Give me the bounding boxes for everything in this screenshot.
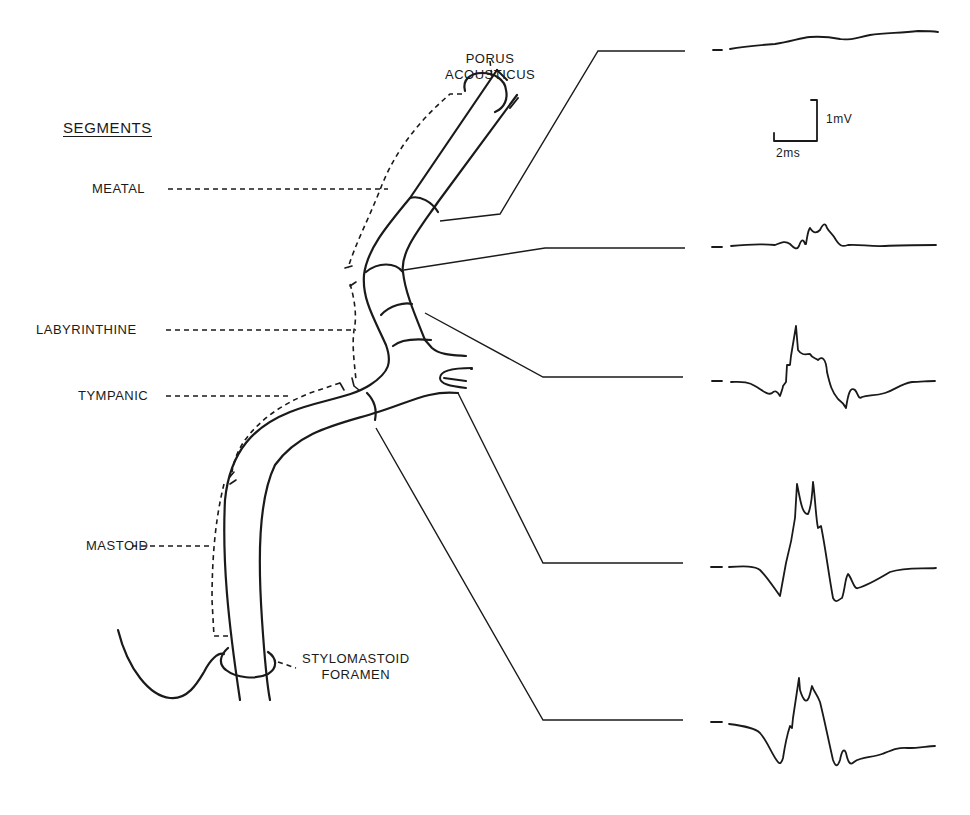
traces (711, 31, 938, 765)
divider-4 (393, 339, 431, 346)
nerve-edge-inner (403, 95, 517, 356)
porus-acousticus-label: PORUS ACOUSTICUS (445, 51, 535, 84)
stylomastoid-label-line2: FORAMEN (302, 667, 410, 683)
posterior-auricular-loop (118, 630, 224, 698)
nerve-branch (440, 368, 472, 388)
mastoid-label: MASTOID (86, 538, 149, 554)
trace-1 (713, 31, 938, 50)
tympanic-label: TYMPANIC (78, 388, 148, 404)
trace-3 (712, 326, 935, 408)
stylomastoid-label-line1: STYLOMASTOID (302, 651, 410, 667)
bracket-ticks (229, 266, 359, 484)
divider-2 (366, 265, 403, 273)
porus-label-line1: PORUS (445, 51, 535, 67)
scale-time-label: 2ms (776, 146, 800, 161)
segments-header: SEGMENTS (63, 119, 152, 138)
facial-nerve (118, 70, 518, 700)
stylomastoid-foramen-label: STYLOMASTOID FORAMEN (302, 651, 410, 684)
trace-5 (711, 678, 935, 765)
segment-brackets (132, 61, 492, 668)
scale-bar (774, 100, 817, 141)
divider-3 (381, 303, 412, 315)
labyrinthine-label: LABYRINTHINE (36, 322, 137, 338)
trace-2 (712, 224, 936, 248)
connector-5 (376, 428, 683, 720)
connector-4 (458, 393, 683, 563)
scale-voltage-label: 1mV (826, 112, 852, 127)
porus-label-line2: ACOUSTICUS (445, 67, 535, 83)
trace-connectors (376, 51, 685, 720)
trace-4 (711, 482, 936, 601)
meatal-label: MEATAL (92, 181, 145, 197)
nerve-edge-outer (224, 70, 497, 700)
connector-2 (404, 248, 685, 270)
